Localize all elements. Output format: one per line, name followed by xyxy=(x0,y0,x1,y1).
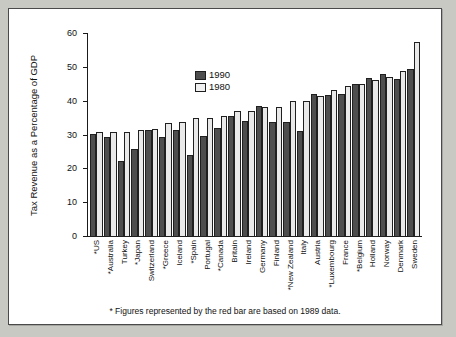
bar-group xyxy=(214,34,228,237)
x-axis-tick-slot: Norway xyxy=(380,238,394,316)
bar-1980 xyxy=(234,111,240,237)
bar-group xyxy=(256,34,270,237)
bar-group xyxy=(325,34,339,237)
bar-1980 xyxy=(138,130,144,237)
y-axis-tick-label: 50 xyxy=(67,62,77,71)
legend-entry: 1990 xyxy=(195,70,230,80)
bar-1980 xyxy=(386,77,392,237)
bar-group xyxy=(159,34,173,237)
bar-group xyxy=(352,34,366,237)
bar-1980 xyxy=(152,129,158,237)
x-axis-tick-label: Ireland xyxy=(245,240,253,264)
x-axis-tick-label: Iceland xyxy=(176,240,184,266)
bar-group xyxy=(338,34,352,237)
bar-group xyxy=(380,34,394,237)
x-axis-tick-label: Denmark xyxy=(397,240,405,272)
bar-1980 xyxy=(276,107,282,237)
x-axis-tick-label: Germany xyxy=(259,240,267,273)
bar-1980 xyxy=(290,101,296,237)
legend-swatch-1990 xyxy=(195,71,206,80)
x-axis-tick-slot: Italy xyxy=(297,238,311,316)
x-axis-tick-label: Switzerland xyxy=(148,240,156,281)
bar-1980 xyxy=(110,132,116,237)
bar-1980 xyxy=(345,86,351,237)
x-axis-tick-slot: Austria xyxy=(311,238,325,316)
bar-group xyxy=(90,34,104,237)
x-axis-tick-label: *Luxembourg xyxy=(328,240,336,288)
x-axis-tick-slot: *Luxembourg xyxy=(325,238,339,316)
x-axis-tick-slot: *Canada xyxy=(214,238,228,316)
y-axis-tick-label: 60 xyxy=(67,29,77,38)
x-axis-tick-label: Finland xyxy=(273,240,281,266)
x-axis-tick-slot: Germany xyxy=(256,238,270,316)
legend-label: 1990 xyxy=(209,70,230,80)
y-axis-tick-label: 20 xyxy=(67,164,77,173)
x-axis-tick-slot: *Australia xyxy=(104,238,118,316)
legend-entry: 1980 xyxy=(195,82,230,92)
x-axis-tick-label: Holland xyxy=(369,240,377,267)
bar-1980 xyxy=(165,123,171,237)
x-axis-tick-label: *New Zealand xyxy=(287,240,295,290)
x-axis-tick-slot: Finland xyxy=(270,238,284,316)
bar-group xyxy=(131,34,145,237)
x-axis-tick-label: *Japan xyxy=(134,240,142,265)
bar-1980 xyxy=(179,122,185,237)
bar-1980 xyxy=(414,42,420,237)
x-axis-tick-slot: Britain xyxy=(228,238,242,316)
bar-1980 xyxy=(221,116,227,237)
x-axis-tick-label: *Belgium xyxy=(356,240,364,272)
bar-1980 xyxy=(303,101,309,237)
x-axis-tick-slot: Sweden xyxy=(408,238,422,316)
x-axis-tick-label: *Greece xyxy=(162,240,170,269)
x-axis-tick-slot: France xyxy=(339,238,353,316)
x-axis-tick-slot: Denmark xyxy=(394,238,408,316)
x-axis-tick-labels: *US*AustraliaTurkey*JapanSwitzerland*Gre… xyxy=(88,238,423,316)
bar-group xyxy=(200,34,214,237)
x-axis-tick-slot: *Japan xyxy=(131,238,145,316)
bar-1980 xyxy=(331,90,337,237)
bar-1980 xyxy=(193,118,199,237)
bar-group xyxy=(187,34,201,237)
x-axis-tick-label: *US xyxy=(93,240,101,254)
x-axis-tick-slot: *Greece xyxy=(159,238,173,316)
bar-group xyxy=(173,34,187,237)
x-axis-tick-slot: Switzerland xyxy=(145,238,159,316)
y-axis-tick-label: 30 xyxy=(67,130,77,139)
x-axis-tick-slot: *Belgium xyxy=(353,238,367,316)
x-axis-tick-label: Britain xyxy=(231,240,239,263)
bar-group xyxy=(228,34,242,237)
x-axis-tick-label: Norway xyxy=(383,240,391,267)
x-axis-tick-slot: Holland xyxy=(367,238,381,316)
x-axis-tick-label: Italy xyxy=(300,240,308,255)
bar-1980 xyxy=(248,111,254,237)
x-axis-tick-label: *Spain xyxy=(190,240,198,264)
plot-area: 0102030405060 19901980 xyxy=(87,34,422,237)
y-axis-title: Tax Revenue as a Percentage of GDP xyxy=(27,34,41,237)
x-axis-tick-slot: Iceland xyxy=(173,238,187,316)
bar-group xyxy=(242,34,256,237)
y-axis-tick-label: 40 xyxy=(67,96,77,105)
chart-legend: 19901980 xyxy=(195,70,230,94)
x-axis-tick-slot: Ireland xyxy=(242,238,256,316)
bar-1980 xyxy=(96,132,102,237)
bar-1980 xyxy=(124,132,130,237)
legend-label: 1980 xyxy=(209,82,230,92)
bar-group xyxy=(269,34,283,237)
legend-swatch-1980 xyxy=(195,83,206,92)
x-axis-tick-label: Portugal xyxy=(204,240,212,270)
x-axis-tick-slot: *New Zealand xyxy=(284,238,298,316)
bar-group xyxy=(283,34,297,237)
bar-group xyxy=(118,34,132,237)
screenshot-page: Tax Revenue as a Percentage of GDP 01020… xyxy=(0,0,456,337)
y-axis-tick-label: 0 xyxy=(72,232,77,241)
x-axis-tick-slot: *Spain xyxy=(187,238,201,316)
bar-1980 xyxy=(317,96,323,237)
x-axis-tick-label: France xyxy=(342,240,350,265)
bar-series-layer xyxy=(88,34,422,237)
x-axis-tick-label: Sweden xyxy=(411,240,419,269)
x-axis-tick-label: *Australia xyxy=(107,240,115,274)
y-axis-tick-label: 10 xyxy=(67,198,77,207)
bar-group xyxy=(311,34,325,237)
bar-1980 xyxy=(359,84,365,237)
bar-1980 xyxy=(207,118,213,237)
